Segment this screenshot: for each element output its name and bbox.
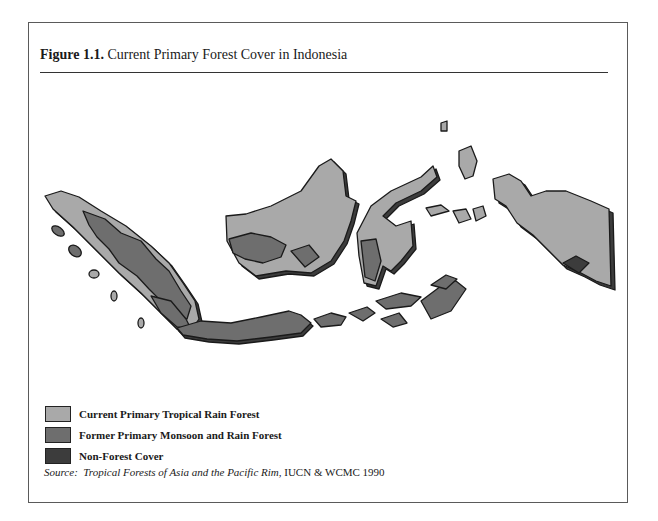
legend-item-non-forest: Non-Forest Cover: [45, 445, 282, 466]
sumatra: [45, 191, 202, 334]
irian-jaya: [493, 174, 615, 290]
source-work: Tropical Forests of Asia and the Pacific…: [83, 466, 281, 478]
legend-label: Non-Forest Cover: [79, 450, 163, 462]
kalimantan: [226, 159, 359, 279]
source-prefix: Source:: [44, 466, 78, 478]
lesser-sunda-islands: [314, 275, 466, 327]
source-publisher: IUCN & WCMC 1990: [284, 466, 384, 478]
swatch-rain-forest: [45, 406, 71, 422]
map-legend: Current Primary Tropical Rain Forest For…: [45, 403, 282, 466]
legend-item-monsoon-forest: Former Primary Monsoon and Rain Forest: [45, 424, 282, 445]
legend-label: Current Primary Tropical Rain Forest: [79, 408, 259, 420]
figure-frame: Figure 1.1. Current Primary Forest Cover…: [28, 22, 628, 503]
sulawesi: [357, 166, 440, 289]
legend-item-rain-forest: Current Primary Tropical Rain Forest: [45, 403, 282, 424]
source-citation: Source: Tropical Forests of Asia and the…: [44, 466, 385, 478]
legend-label: Former Primary Monsoon and Rain Forest: [79, 429, 282, 441]
swatch-monsoon-forest: [45, 427, 71, 443]
swatch-non-forest: [45, 448, 71, 464]
